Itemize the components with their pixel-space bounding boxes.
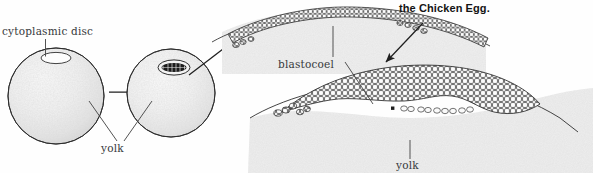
early-blastoderm-yolk-texture (222, 10, 486, 74)
stage-cleaving-ovum (127, 49, 215, 137)
label-blastocoel: blastocoel (278, 59, 334, 70)
diagram-canvas: the Chicken Egg. cytoplasmic disc yolk b… (0, 0, 593, 173)
label-cytoplasmic-disc: cytoplasmic disc (2, 26, 93, 37)
late-blastoderm-free-cells (391, 106, 473, 114)
stage-late-blastoderm (248, 65, 593, 173)
label-yolk-left: yolk (101, 143, 124, 154)
label-yolk-right: yolk (396, 160, 419, 171)
stage-early-blastoderm (212, 7, 490, 74)
stage-unfertilized-ovum (8, 48, 104, 144)
diagram-title: the Chicken Egg. (399, 2, 490, 14)
